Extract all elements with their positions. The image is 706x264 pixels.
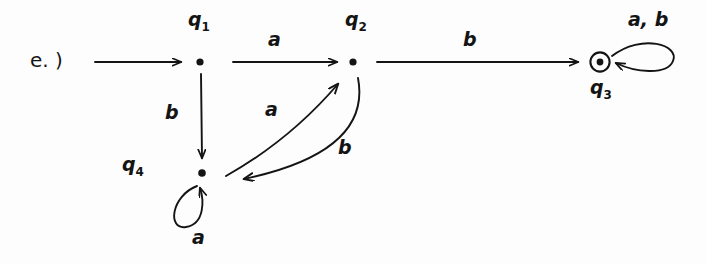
state-label-q2: q2: [345, 10, 367, 33]
transition-q4-self-loop: [174, 186, 202, 227]
state-label-q3-sub: 3: [604, 88, 612, 102]
state-label-q1-text: q: [188, 8, 202, 30]
transition-label-q1-to-q2: a: [268, 30, 281, 49]
state-node-q3-accepting[interactable]: [590, 52, 609, 71]
state-label-q1-sub: 1: [202, 20, 210, 34]
diagram-canvas: e. ) q1 q2 q3 q4 a b a b b a a, b: [0, 0, 706, 264]
state-label-q3: q3: [590, 78, 612, 101]
transition-q2-to-q4: [244, 78, 359, 179]
state-label-q2-sub: 2: [359, 20, 367, 34]
transition-label-q3-self-loop: a, b: [628, 10, 668, 29]
transition-q4-to-q2: [226, 84, 338, 176]
transition-label-q4-to-q2: a: [265, 100, 278, 119]
figure-prefix-label: e. ): [30, 50, 63, 70]
transition-label-q2-to-q4: b: [338, 138, 352, 157]
state-label-q4: q4: [122, 155, 144, 178]
transition-label-q1-to-q4: b: [165, 103, 179, 122]
state-label-q1: q1: [188, 10, 210, 33]
state-label-q4-sub: 4: [136, 165, 144, 179]
transition-q1-to-q4: [201, 74, 202, 158]
state-label-q3-text: q: [590, 76, 604, 98]
state-node-q1[interactable]: [196, 58, 203, 65]
diagram-vector-layer: [0, 0, 706, 264]
state-node-q4[interactable]: [198, 169, 206, 177]
transition-q3-self-loop: [612, 43, 674, 71]
state-node-q2[interactable]: [349, 58, 356, 65]
state-label-q2-text: q: [345, 8, 359, 30]
transition-label-q2-to-q3: b: [463, 30, 477, 49]
transition-label-q4-self-loop: a: [192, 228, 205, 247]
state-label-q4-text: q: [122, 153, 136, 175]
